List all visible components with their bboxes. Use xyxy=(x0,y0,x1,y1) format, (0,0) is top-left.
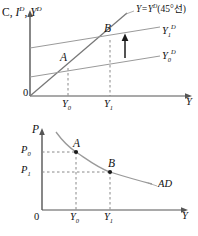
bottom-xtick-y1: Y1 xyxy=(104,212,113,225)
top-xtick-y0: Y0 xyxy=(62,99,71,112)
bottom-origin-label: 0 xyxy=(34,212,39,223)
top-origin-label: 0 xyxy=(23,88,28,99)
expenditure-line-yd1 xyxy=(30,27,160,48)
bottom-xtick-y0: Y0 xyxy=(70,212,79,225)
label-yd0: Y0D xyxy=(162,49,176,63)
ad-curve-label: AD xyxy=(158,179,172,190)
ad-curve xyxy=(56,132,152,184)
top-point-a-label: A xyxy=(60,52,67,64)
bottom-p-axis-arrowhead xyxy=(39,128,45,135)
top-y-axis-label: C, ID, YD xyxy=(2,6,42,18)
line-45-degree xyxy=(30,13,127,96)
bottom-ytick-p1: P1 xyxy=(21,165,31,178)
bottom-panel-ad xyxy=(39,128,188,213)
leader-line-ad xyxy=(148,183,157,186)
bottom-ytick-p0: P0 xyxy=(21,145,31,158)
label-yd1: Y1D xyxy=(162,24,176,38)
bottom-point-b-label: B xyxy=(108,158,115,170)
bottom-x-axis-label: Y xyxy=(182,211,188,222)
top-xtick-y1: Y1 xyxy=(104,99,113,112)
top-x-axis-label: Y xyxy=(186,97,192,108)
ad-point-b xyxy=(108,170,112,174)
expenditure-line-yd0 xyxy=(30,56,160,77)
leader-line-45 xyxy=(126,11,134,14)
ad-point-a xyxy=(74,150,78,154)
top-point-b-label: B xyxy=(104,23,111,35)
bottom-point-a-label: A xyxy=(73,138,80,150)
shift-up-arrow xyxy=(122,34,129,59)
economics-diagram: C, ID, YD Y=YD(45°선) Y1D Y0D A B 0 Y0 Y1… xyxy=(0,0,198,236)
label-45-degree-line: Y=YD(45°선) xyxy=(136,4,186,15)
bottom-p-axis-label: P xyxy=(32,124,39,136)
